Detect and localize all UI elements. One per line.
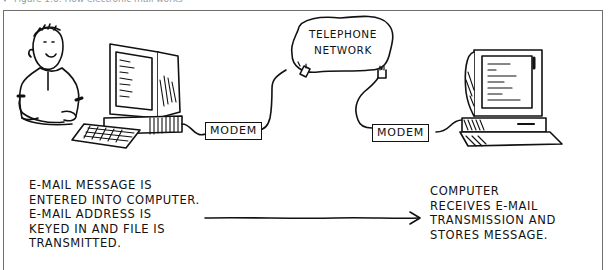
- receiver-modem: MODEM: [372, 124, 429, 142]
- receiver-text-line: TRANSMISSION AND: [430, 213, 556, 228]
- network-label-line1: TELEPHONE: [300, 26, 386, 42]
- receiver-text-line: STORES MESSAGE.: [430, 228, 556, 243]
- receiver-text-line: RECEIVES E-MAIL: [430, 199, 556, 214]
- sender-text-line: E-MAIL ADDRESS IS: [29, 207, 200, 222]
- receiver-description: COMPUTER RECEIVES E-MAIL TRANSMISSION AN…: [430, 184, 556, 242]
- sender-modem: MODEM: [205, 122, 262, 140]
- receiver-modem-label: MODEM: [377, 126, 424, 139]
- sender-modem-label: MODEM: [210, 124, 257, 137]
- sender-computer-icon: [72, 44, 182, 148]
- sender-text-line: TRANSMITTED.: [29, 236, 200, 251]
- receiver-computer-icon: [460, 50, 562, 146]
- flow-arrow-icon: [205, 218, 419, 219]
- person-icon: [18, 24, 82, 125]
- receiver-text-line: COMPUTER: [430, 184, 556, 199]
- sender-text-line: E-MAIL MESSAGE IS: [29, 178, 200, 193]
- sender-description: E-MAIL MESSAGE IS ENTERED INTO COMPUTER.…: [29, 178, 200, 251]
- telephone-network-label: TELEPHONE NETWORK: [300, 26, 386, 58]
- sender-text-line: KEYED IN AND FILE IS: [29, 222, 200, 237]
- sender-text-line: ENTERED INTO COMPUTER.: [29, 193, 200, 208]
- network-label-line2: NETWORK: [300, 42, 386, 58]
